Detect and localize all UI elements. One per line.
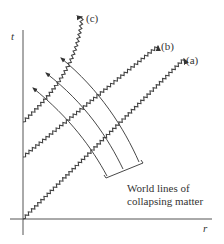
matter-world-line-2 — [46, 73, 123, 169]
light-ray-a-label: (a) — [186, 54, 199, 67]
t-axis-label: t — [11, 30, 15, 42]
matter-world-line-3 — [61, 58, 139, 162]
light-ray-b-label: (b) — [161, 40, 174, 53]
light-ray-c-label: (c) — [86, 12, 99, 25]
r-axis-label: r — [203, 222, 208, 234]
spacetime-diagram: t r (a) (b) (c) World lines of collapsin… — [0, 0, 224, 244]
bracket — [104, 160, 143, 178]
light-ray-b — [23, 46, 158, 157]
annotation-line-2: collapsing matter — [127, 195, 203, 207]
annotation-line-1: World lines of — [127, 182, 190, 194]
